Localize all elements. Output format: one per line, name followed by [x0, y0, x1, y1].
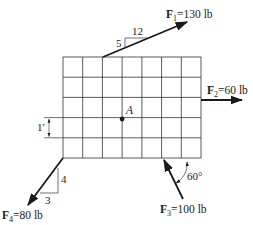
f4-label: F4=80 lb	[2, 209, 43, 224]
unit-dimension-label: 1′	[37, 121, 45, 133]
f3-label: F3=100 lb	[160, 203, 207, 218]
force-f4: 4 3 F4=80 lb	[2, 158, 67, 224]
f4-slope-rise: 4	[61, 173, 67, 185]
point-a-dot	[120, 117, 125, 122]
f4-slope-triangle	[40, 168, 58, 193]
f4-slope-run: 3	[45, 194, 51, 206]
f2-label: F2=60 lb	[207, 84, 248, 99]
f1-slope-rise: 5	[116, 37, 122, 49]
force-f3: 60° F3=100 lb	[160, 160, 207, 218]
force-f2: F2=60 lb	[201, 84, 248, 100]
f1-label: F1=130 lb	[166, 8, 213, 23]
f3-arrow	[164, 160, 183, 199]
f3-angle-arc	[176, 162, 187, 183]
point-a-label: A	[125, 104, 134, 116]
f1-slope-run: 12	[132, 25, 143, 37]
force-f1: 5 12 F1=130 lb	[103, 8, 213, 57]
force-diagram: A 1′ 5 12 F1=130 lb F2=60 lb 60° F3=100 …	[0, 0, 253, 225]
unit-dimension	[44, 118, 63, 138]
f3-angle-label: 60°	[187, 170, 202, 182]
